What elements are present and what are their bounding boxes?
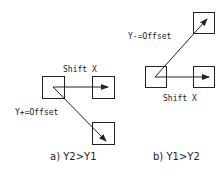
panel-a: Shift X Y+=Offset a) Y2>Y1 bbox=[15, 65, 115, 162]
shift-label-b: Shift X bbox=[163, 94, 197, 103]
caption-b: b) Y1>Y2 bbox=[153, 151, 200, 162]
offset-arrow-b bbox=[155, 19, 207, 77]
shift-label-a: Shift X bbox=[63, 65, 97, 74]
offset-arrow-a bbox=[53, 87, 106, 141]
offset-target-box-a bbox=[93, 123, 115, 145]
panel-b: Shift X Y-=Offset b) Y1>Y2 bbox=[128, 13, 215, 163]
caption-a: a) Y2>Y1 bbox=[50, 151, 97, 162]
diagram-canvas: Shift X Y+=Offset a) Y2>Y1 Shift X Y-=Of… bbox=[0, 0, 221, 177]
offset-label-b: Y-=Offset bbox=[128, 32, 172, 41]
offset-label-a: Y+=Offset bbox=[15, 108, 59, 117]
